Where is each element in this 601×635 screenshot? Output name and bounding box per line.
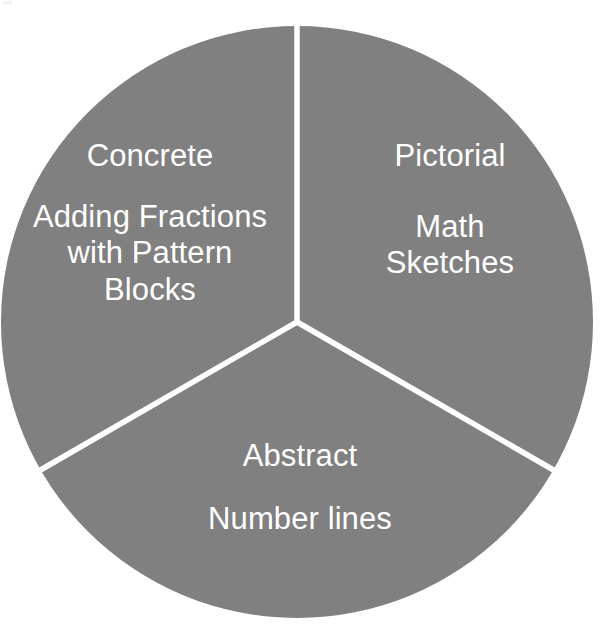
sector-label-abstract: Abstract Number lines xyxy=(125,438,475,537)
sector-body-abstract-line1: Number lines xyxy=(125,501,475,538)
sector-body-concrete-line2: with Pattern xyxy=(8,235,292,272)
sector-body-concrete-line3: Blocks xyxy=(8,272,292,309)
pie-chart-svg xyxy=(0,0,601,635)
sector-title-pictorial: Pictorial xyxy=(330,138,570,175)
cra-pie-diagram: Concrete Adding Fractions with Pattern B… xyxy=(0,0,601,635)
sector-label-concrete: Concrete Adding Fractions with Pattern B… xyxy=(8,138,292,308)
sector-body-concrete-line1: Adding Fractions xyxy=(8,199,292,236)
sector-title-concrete: Concrete xyxy=(8,138,292,175)
sector-body-pictorial-line1: Math xyxy=(330,209,570,246)
corner-artifact xyxy=(3,1,12,5)
sector-title-abstract: Abstract xyxy=(125,438,475,475)
sector-body-pictorial-line2: Sketches xyxy=(330,245,570,282)
sector-label-pictorial: Pictorial Math Sketches xyxy=(330,138,570,282)
